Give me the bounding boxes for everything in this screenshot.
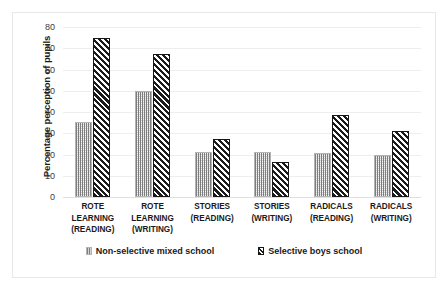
legend-item[interactable]: Selective boys school [258, 246, 362, 256]
bar-groups [63, 27, 421, 197]
y-axis-tick-labels: 80706050403020100 [13, 27, 59, 197]
y-axis-tick-label: 40 [45, 107, 55, 117]
bar[interactable] [272, 162, 289, 197]
plot-area [63, 27, 421, 197]
gridline [63, 197, 421, 198]
bar-pair [361, 27, 421, 197]
x-axis-label: RADICALS(WRITING) [361, 201, 421, 236]
y-axis-tick-label: 20 [45, 150, 55, 160]
legend-label: Non-selective mixed school [96, 246, 215, 256]
bar[interactable] [392, 131, 409, 197]
bar-pair [123, 27, 183, 197]
x-axis-label: STORIES(READING) [182, 201, 242, 236]
x-axis-label: ROTELEARNING(READING) [63, 201, 123, 236]
bar-group [63, 27, 123, 197]
bar-group [302, 27, 362, 197]
bar-pair [302, 27, 362, 197]
bar[interactable] [135, 91, 152, 197]
legend-item[interactable]: Non-selective mixed school [86, 246, 215, 256]
legend-swatch-hatch-icon [258, 247, 264, 255]
chart-container: Percentage perception of pupils 80706050… [12, 12, 436, 278]
legend-label: Selective boys school [268, 246, 362, 256]
y-axis-tick-label: 80 [45, 22, 55, 32]
bar[interactable] [314, 153, 331, 197]
bar-group [182, 27, 242, 197]
x-axis-label: STORIES(WRITING) [242, 201, 302, 236]
x-axis-category-labels: ROTELEARNING(READING)ROTELEARNING(WRITIN… [63, 201, 421, 236]
legend-swatch-dotted-icon [86, 247, 92, 255]
bar-group [242, 27, 302, 197]
bar[interactable] [374, 155, 391, 198]
x-axis-label: ROTELEARNING(WRITING) [123, 201, 183, 236]
bar-group [123, 27, 183, 197]
y-axis-tick-label: 70 [45, 43, 55, 53]
bar[interactable] [195, 152, 212, 197]
y-axis-tick-label: 0 [50, 192, 55, 202]
bar[interactable] [332, 115, 349, 197]
chart-legend: Non-selective mixed schoolSelective boys… [13, 246, 435, 256]
bar-group [361, 27, 421, 197]
y-axis-tick-label: 30 [45, 128, 55, 138]
bar[interactable] [75, 122, 92, 197]
y-axis-tick-label: 50 [45, 86, 55, 96]
x-axis-label: RADICALS(READING) [302, 201, 362, 236]
bar-pair [63, 27, 123, 197]
bar[interactable] [93, 38, 110, 197]
y-axis-tick-label: 60 [45, 65, 55, 75]
bar[interactable] [213, 139, 230, 197]
y-axis-tick-label: 10 [45, 171, 55, 181]
bar-pair [182, 27, 242, 197]
bar-pair [242, 27, 302, 197]
bar[interactable] [254, 152, 271, 197]
bar[interactable] [153, 54, 170, 197]
